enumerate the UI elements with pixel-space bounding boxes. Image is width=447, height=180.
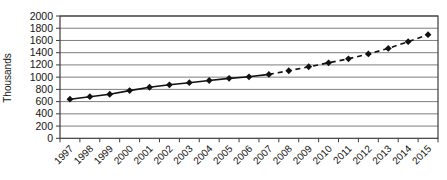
x-tick-label: 2011 [331,143,354,166]
data-point-marker [425,31,432,38]
line-chart-figure: Thousands 020040060080010001200140016001… [0,0,447,180]
data-point-marker [305,63,312,70]
x-tick-label: 2004 [191,143,215,167]
y-tick-label: 2000 [30,10,54,22]
y-tick-label: 1600 [30,34,54,46]
x-tick-label: 2008 [271,143,295,167]
data-point-marker [405,38,412,45]
data-point-marker [86,93,93,100]
x-tick-label: 2009 [291,143,315,167]
x-tick-label: 1999 [92,143,116,167]
y-tick-label: 600 [35,95,53,107]
data-point-marker [186,79,193,86]
data-point-marker [345,55,352,62]
tick-labels-group: 0200400600800100012001400160018002000199… [30,10,434,167]
data-series-group [67,31,432,102]
y-tick-label: 200 [35,120,53,132]
x-tick-label: 2005 [211,143,235,167]
x-tick-label: 1997 [52,143,76,167]
data-point-marker [285,67,292,74]
y-tick-label: 0 [47,132,53,144]
x-tick-label: 2007 [251,143,275,167]
data-point-marker [226,75,233,82]
data-point-marker [246,73,253,80]
y-tick-label: 1200 [30,58,54,70]
data-point-marker [206,77,213,84]
x-tick-label: 2012 [350,143,374,167]
x-tick-label: 2014 [390,143,414,167]
x-tick-label: 2003 [171,143,195,167]
y-tick-label: 1400 [30,46,54,58]
x-tick-label: 2013 [370,143,394,167]
data-point-marker [365,51,372,58]
y-tick-label: 400 [35,107,53,119]
y-axis-title: Thousands [2,53,13,102]
y-tick-label: 1800 [30,22,54,34]
x-tick-label: 2001 [131,143,155,167]
y-tick-label: 1000 [30,71,54,83]
line-chart-canvas: Thousands 020040060080010001200140016001… [0,0,447,180]
data-point-marker [166,81,173,88]
x-tick-label: 2015 [410,143,434,167]
data-point-marker [385,45,392,52]
x-tick-label: 1998 [72,143,96,167]
y-tick-label: 800 [35,83,53,95]
x-tick-label: 2002 [151,143,175,167]
x-tick-label: 2006 [231,143,255,167]
x-tick-label: 2010 [310,143,334,167]
data-point-marker [126,87,133,94]
gridlines-group [60,16,438,126]
data-point-marker [106,91,113,98]
x-tick-label: 2000 [112,143,136,167]
axes-group [56,16,438,142]
